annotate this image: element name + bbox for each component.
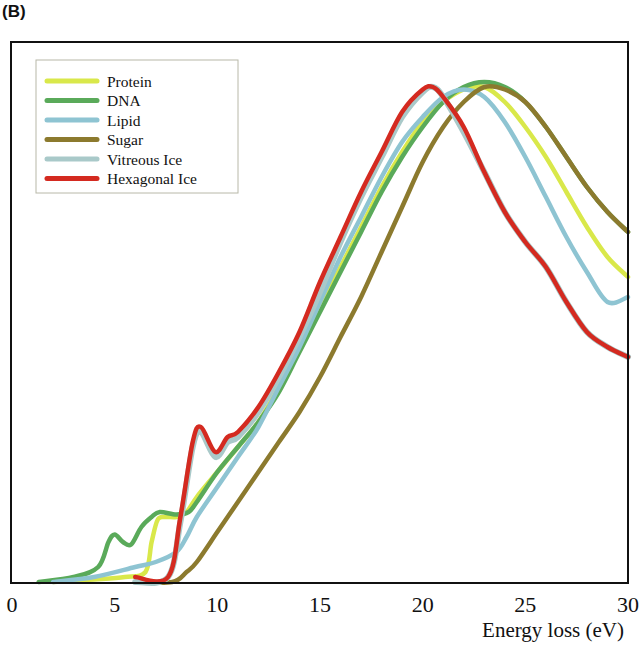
legend-label-lipid: Lipid: [107, 112, 141, 129]
energy-loss-chart: ProteinDNALipidSugarVitreous IceHexagona…: [0, 0, 644, 645]
legend-label-protein: Protein: [107, 73, 152, 90]
x-axis-ticks: 051015202530: [7, 592, 640, 617]
x-tick-label: 5: [109, 592, 120, 617]
legend-label-sugar: Sugar: [107, 131, 144, 148]
x-axis-label: Energy loss (eV): [482, 618, 624, 642]
legend-label-hexagonal-ice: Hexagonal Ice: [107, 170, 197, 187]
x-tick-label: 25: [514, 592, 536, 617]
legend-label-vitreous-ice: Vitreous Ice: [107, 151, 182, 168]
x-tick-label: 20: [412, 592, 434, 617]
x-tick-label: 30: [617, 592, 639, 617]
x-tick-label: 15: [309, 592, 331, 617]
x-tick-label: 10: [206, 592, 228, 617]
x-tick-label: 0: [7, 592, 18, 617]
legend-label-dna: DNA: [107, 92, 141, 109]
legend: ProteinDNALipidSugarVitreous IceHexagona…: [36, 60, 238, 193]
